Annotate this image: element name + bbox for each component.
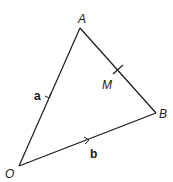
label-vector-b: b (90, 147, 97, 161)
label-point-m: M (102, 78, 112, 92)
label-point-a: A (77, 12, 86, 26)
segment-ab (80, 28, 156, 113)
label-point-b: B (159, 107, 167, 121)
label-vector-a: a (34, 89, 41, 103)
triangle-oab-figure: A O B M a b (0, 0, 173, 182)
label-point-o: O (5, 167, 14, 181)
arrow-a-icon (45, 93, 51, 98)
vector-diagram: A O B M a b (0, 0, 173, 182)
